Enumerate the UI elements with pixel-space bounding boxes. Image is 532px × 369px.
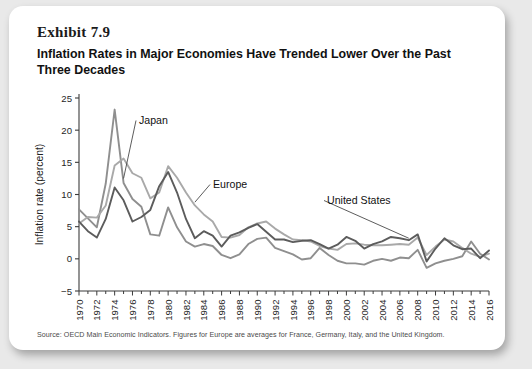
y-tick-label: 25 [61,93,72,104]
x-tick-label: 1998 [323,300,334,321]
series-annotation-japan: Japan [139,114,168,126]
x-tick-label: 2008 [412,300,423,321]
x-tick-label: 1982 [181,300,192,321]
x-tick-label: 2014 [466,299,477,321]
x-tick-label: 2006 [394,300,405,321]
x-tick-label: 2016 [484,300,495,321]
x-tick-label: 1990 [252,300,263,321]
exhibit-number: Exhibit 7.9 [37,24,110,41]
y-tick-label: 20 [61,125,72,136]
x-tick-label: 1972 [91,300,102,321]
y-tick-label: 15 [61,157,72,168]
annotation-leader-line [195,185,210,203]
series-line-japan [79,110,489,268]
x-tick-label: 1976 [127,300,138,321]
series-line-europe [79,158,489,256]
x-tick-label: 1988 [234,300,245,321]
series-line-united-states [79,172,489,261]
y-tick-label: 0 [67,253,72,264]
x-tick-label: 1974 [109,299,120,321]
x-tick-label: 1978 [145,300,156,321]
exhibit-card: Exhibit 7.9 Inflation Rates in Major Eco… [9,6,505,350]
x-tick-label: 1970 [74,300,85,321]
series-annotation-united-states: United States [327,194,391,206]
y-tick-label: −5 [61,286,72,297]
x-tick-label: 2000 [341,300,352,321]
x-tick-label: 2002 [359,300,370,321]
x-tick-label: 1992 [270,300,281,321]
x-tick-label: 1984 [198,299,209,321]
y-tick-label: 10 [61,189,72,200]
source-note: Source: OECD Main Economic Indicators. F… [37,331,487,339]
x-tick-label: 1980 [163,300,174,321]
y-axis-title: Inflation rate (percent) [34,144,45,246]
chart-plot-area: −505101520251970197219741976197819801982… [27,86,497,324]
annotation-leader-line [324,201,409,239]
inflation-line-chart: −505101520251970197219741976197819801982… [27,86,497,324]
chart-title: Inflation Rates in Major Economies Have … [37,46,467,78]
x-tick-label: 1986 [216,300,227,321]
x-tick-label: 1994 [288,299,299,321]
x-tick-label: 2004 [377,299,388,321]
x-tick-label: 2012 [448,300,459,321]
y-tick-label: 5 [67,221,72,232]
series-annotation-europe: Europe [213,178,247,190]
x-tick-label: 2010 [430,300,441,321]
x-tick-label: 1996 [305,300,316,321]
